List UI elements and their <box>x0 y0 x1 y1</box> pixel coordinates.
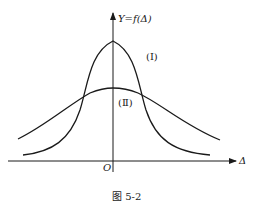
curve-ii <box>18 88 220 140</box>
curve-ii-label: (Ⅱ) <box>118 98 133 108</box>
y-axis-label: Y=f(Δ) <box>118 14 152 24</box>
curve-i-label: (Ⅰ) <box>146 52 158 62</box>
x-axis-label: Δ <box>239 156 246 166</box>
figure-caption: 图 5-2 <box>112 192 141 202</box>
origin-label: O <box>103 163 111 173</box>
curve-i <box>23 41 210 155</box>
